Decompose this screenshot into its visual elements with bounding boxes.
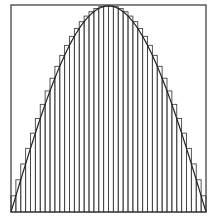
riemann-rectangle — [55, 66, 60, 212]
riemann-rectangle — [162, 78, 167, 212]
riemann-rectangle — [60, 55, 65, 212]
riemann-rectangle — [196, 180, 201, 212]
rectangles-group — [11, 6, 206, 212]
riemann-rectangle — [113, 7, 118, 212]
riemann-rectangle — [104, 6, 109, 212]
riemann-rectangle — [40, 104, 45, 212]
riemann-rectangle — [133, 22, 138, 212]
riemann-rectangle — [172, 104, 177, 212]
riemann-rectangle — [167, 91, 172, 212]
riemann-rectangle — [143, 36, 148, 212]
riemann-rectangle — [70, 36, 75, 212]
riemann-rectangle — [109, 6, 114, 212]
riemann-rectangle — [79, 22, 84, 212]
riemann-rectangle — [123, 12, 128, 212]
riemann-rectangle — [128, 16, 133, 212]
riemann-rectangle — [84, 16, 89, 212]
riemann-rectangle — [45, 91, 50, 212]
riemann-sum-chart — [0, 0, 215, 223]
riemann-rectangle — [89, 12, 94, 212]
riemann-rectangle — [94, 9, 99, 212]
riemann-rectangle — [99, 7, 104, 212]
riemann-rectangle — [50, 78, 55, 212]
riemann-rectangle — [16, 180, 21, 212]
riemann-rectangle — [118, 9, 123, 212]
riemann-rectangle — [152, 55, 157, 212]
riemann-rectangle — [74, 28, 79, 212]
riemann-rectangle — [65, 45, 70, 212]
riemann-rectangle — [138, 28, 143, 212]
riemann-rectangle — [148, 45, 153, 212]
riemann-rectangle — [157, 66, 162, 212]
